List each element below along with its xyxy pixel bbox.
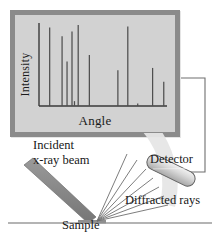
incident-beam-label-line1: Incident bbox=[33, 138, 74, 152]
incident-beam-label-line2: x-ray beam bbox=[33, 153, 90, 168]
diffraction-peaks bbox=[50, 25, 164, 106]
chart-plot-area: Intensity Angle bbox=[15, 15, 175, 132]
diffractogram-panel: Intensity Angle bbox=[10, 10, 180, 137]
diffractometer-schematic: Incident x-ray beam Detector Diffracted … bbox=[0, 133, 218, 235]
incident-beam-label: Incident x-ray beam bbox=[33, 138, 90, 168]
diffracted-rays-label: Diffracted rays bbox=[125, 193, 200, 208]
sample-label: Sample bbox=[62, 218, 100, 233]
xrd-figure: Intensity Angle bbox=[0, 0, 218, 235]
x-axis-label: Angle bbox=[15, 113, 175, 129]
y-axis-label: Intensity bbox=[18, 47, 33, 103]
detector-label: Detector bbox=[150, 152, 193, 167]
incident-x-ray-beam bbox=[24, 158, 96, 223]
